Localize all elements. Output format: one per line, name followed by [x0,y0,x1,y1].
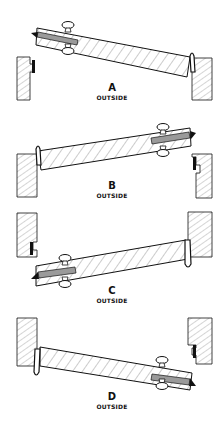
strike-plate [193,345,196,358]
panel-c [17,212,212,288]
panel-d-caption: OUTSIDE [0,404,224,410]
panel-a-caption: OUTSIDE [0,95,224,101]
hinge-icon [36,146,41,165]
right-frame [188,212,212,257]
latch-tip-icon [190,131,196,139]
left-frame [17,213,37,257]
strike-plate [193,157,196,170]
left-frame [17,57,34,100]
door-slab [40,347,192,390]
hinge-icon [190,53,195,72]
strike-plate [30,242,33,255]
latch-tip-icon [189,378,196,386]
panel-c-letter: C [0,286,224,296]
door-slab [36,28,190,77]
panel-a-letter: A [0,83,224,93]
panel-c-caption: OUTSIDE [0,298,224,304]
latch-tip-icon [31,272,39,279]
panel-d [17,318,212,390]
panel-b-caption: OUTSIDE [0,193,224,199]
strike-plate [32,60,35,73]
door-slab [36,240,188,286]
door-diagrams [0,0,224,427]
right-frame [188,318,212,364]
hinge-icon [185,240,191,267]
panel-b-letter: B [0,181,224,191]
latch-tip-icon [31,32,38,38]
hinge-icon [34,349,40,375]
door-slab [38,128,191,170]
panel-d-letter: D [0,392,224,402]
